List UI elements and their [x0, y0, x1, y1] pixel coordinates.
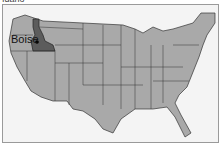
us-map-svg [3, 5, 219, 143]
city-label-boise: Boise [11, 33, 39, 45]
us-map: Boise [2, 4, 219, 143]
